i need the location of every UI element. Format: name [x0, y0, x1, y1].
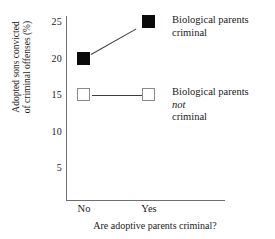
y-tick-15: 15: [38, 90, 62, 100]
x-axis-title: Are adoptive parents criminal?: [55, 220, 255, 232]
y-axis-title-line1: Adopted sons convicted: [11, 0, 22, 152]
y-tick-20: 20: [38, 54, 62, 64]
x-tick-no: No: [64, 203, 104, 215]
legend-notcriminal: Biological parents not criminal: [172, 86, 249, 124]
legend-criminal-line2: criminal: [172, 27, 249, 40]
y-axis-ticks: 25 20 15 10 5: [38, 0, 62, 239]
y-axis-line: [66, 16, 67, 201]
y-tick-5: 5: [38, 163, 62, 173]
y-tick-25: 25: [38, 17, 62, 27]
series-criminal-line: [91, 28, 137, 54]
y-axis-title-line2: of criminal offenses (%): [22, 0, 33, 152]
series-notcriminal-line: [92, 95, 142, 96]
x-axis-line: [66, 200, 225, 201]
y-axis-title: Adopted sons convicted of criminal offen…: [11, 0, 33, 152]
legend-criminal: Biological parents criminal: [172, 14, 249, 39]
legend-notcriminal-line2: not criminal: [172, 99, 249, 124]
x-tick-yes: Yes: [129, 203, 169, 215]
legend-notcriminal-line1: Biological parents: [172, 86, 249, 99]
legend-notcriminal-emphasis: not: [172, 99, 185, 110]
legend-notcriminal-rest: criminal: [172, 111, 249, 124]
series-notcriminal-point-yes: [142, 88, 155, 101]
series-notcriminal-point-no: [77, 88, 90, 101]
chart-figure: 25 20 15 10 5 Adopted sons convicted of …: [0, 0, 275, 239]
legend-criminal-line1: Biological parents: [172, 14, 249, 27]
series-criminal-point-no: [77, 52, 90, 65]
series-criminal-point-yes: [142, 15, 155, 28]
y-tick-10: 10: [38, 127, 62, 137]
